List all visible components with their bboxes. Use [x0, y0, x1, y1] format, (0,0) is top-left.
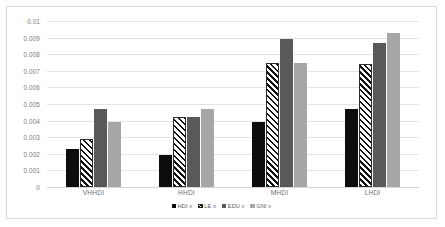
bar-group	[326, 21, 419, 187]
legend-label: GNI x	[256, 203, 271, 209]
bar-group	[140, 21, 233, 187]
bar	[359, 64, 372, 187]
x-axis-label-mhdi: MHDI	[233, 189, 326, 196]
legend-swatch-icon	[250, 204, 255, 209]
plot-area	[47, 21, 419, 187]
legend-swatch-icon	[222, 204, 227, 209]
bar	[159, 155, 172, 187]
y-axis-tick-label: 0.007	[24, 67, 41, 74]
legend-item[interactable]: HDI x	[172, 203, 192, 209]
bar-group	[47, 21, 140, 187]
gridline	[47, 187, 419, 188]
x-axis-label-hhdi: HHDI	[140, 189, 233, 196]
y-axis-tick-label: 0.006	[24, 84, 41, 91]
y-axis-tick-label: 0	[36, 184, 40, 191]
legend-item[interactable]: EDU x	[222, 203, 245, 209]
bar	[66, 149, 79, 187]
bar	[345, 109, 358, 187]
legend-item[interactable]: GNI x	[250, 203, 271, 209]
bar	[94, 109, 107, 187]
bar-groups	[47, 21, 419, 187]
x-axis-label-lhdi: LHDI	[326, 189, 419, 196]
bar	[187, 117, 200, 187]
y-axis: 00.0010.0020.0030.0040.0050.0060.0070.00…	[7, 21, 43, 187]
bar	[252, 122, 265, 187]
y-axis-tick-label: 0.008	[24, 51, 41, 58]
x-axis-category-labels: VHHDIHHDIMHDILHDI	[47, 189, 419, 203]
y-axis-tick-label: 0.01	[27, 18, 40, 25]
legend-swatch-icon	[172, 204, 177, 209]
y-axis-tick-label: 0.009	[24, 34, 41, 41]
y-axis-tick-label: 0.002	[24, 150, 41, 157]
legend-label: EDU x	[228, 203, 245, 209]
legend-swatch-icon	[198, 204, 203, 209]
bar	[280, 39, 293, 187]
y-axis-tick-label: 0.001	[24, 167, 41, 174]
bar	[108, 122, 121, 187]
bar	[173, 117, 186, 187]
bar-group	[233, 21, 326, 187]
bar	[80, 139, 93, 187]
bar	[387, 33, 400, 187]
chart-legend: HDI xLE xEDU xGNI x	[7, 203, 436, 209]
y-axis-tick-label: 0.004	[24, 117, 41, 124]
chart-container: 00.0010.0020.0030.0040.0050.0060.0070.00…	[6, 6, 437, 219]
bar	[201, 109, 214, 187]
bar	[266, 63, 279, 188]
y-axis-tick-label: 0.005	[24, 101, 41, 108]
legend-label: LE x	[204, 203, 216, 209]
y-axis-tick-label: 0.003	[24, 134, 41, 141]
legend-item[interactable]: LE x	[198, 203, 216, 209]
legend-label: HDI x	[178, 203, 192, 209]
bar	[373, 43, 386, 187]
bar	[294, 63, 307, 188]
x-axis-label-vhhdi: VHHDI	[47, 189, 140, 196]
